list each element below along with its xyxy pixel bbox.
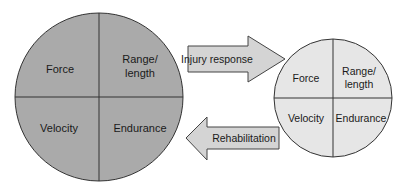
large-range-label-line1: Range/ xyxy=(122,53,158,65)
injury-response-arrow: Injury response xyxy=(181,36,285,82)
small-force-label: Force xyxy=(293,72,320,84)
diagram-canvas: Force Range/ length Velocity Endurance I… xyxy=(0,0,403,191)
small-velocity-label: Velocity xyxy=(288,112,325,124)
large-force-label: Force xyxy=(46,63,74,75)
small-range-label-line1: Range/ xyxy=(342,65,376,77)
injury-response-label: Injury response xyxy=(181,53,253,65)
rehabilitation-arrow: Rehabilitation xyxy=(186,117,279,160)
large-range-label-line2: length xyxy=(125,67,155,79)
rehabilitation-label: Rehabilitation xyxy=(212,132,276,144)
small-circle: Force Range/ length Velocity Endurance xyxy=(274,39,392,157)
large-circle: Force Range/ length Velocity Endurance xyxy=(15,13,183,181)
large-velocity-label: Velocity xyxy=(40,122,78,134)
small-endurance-label: Endurance xyxy=(336,112,387,124)
small-range-label-line2: length xyxy=(345,78,374,90)
large-endurance-label: Endurance xyxy=(113,122,166,134)
